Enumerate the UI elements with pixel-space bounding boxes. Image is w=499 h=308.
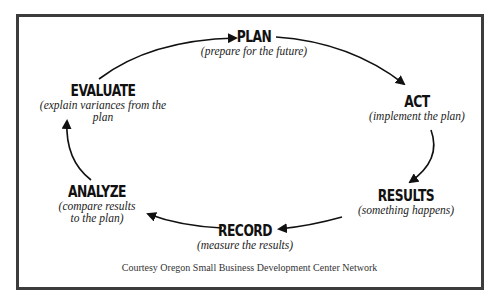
credit-footer: Courtesy Oregon Small Business Developme… — [0, 262, 499, 273]
node-subtitle-line-1: (compare results — [37, 200, 157, 212]
node-subtitle-line-1: (explain variances from the — [38, 99, 168, 111]
node-title: PLAN — [205, 29, 303, 45]
node-subtitle-line-2: to the plan) — [37, 212, 157, 224]
node-analyze: ANALYZE (compare results to the plan) — [37, 184, 157, 224]
arrow-act-to-results — [410, 130, 434, 182]
node-title: RESULTS — [357, 188, 455, 204]
node-subtitle: (implement the plan) — [357, 110, 477, 122]
node-act: ACT (implement the plan) — [357, 94, 477, 122]
node-title: ACT — [368, 94, 466, 110]
node-record: RECORD (measure the results) — [185, 223, 305, 251]
node-subtitle: (measure the results) — [185, 239, 305, 251]
node-title: ANALYZE — [48, 184, 146, 200]
node-results: RESULTS (something happens) — [346, 188, 466, 216]
node-plan: PLAN (prepare for the future) — [194, 29, 314, 57]
node-title: EVALUATE — [50, 83, 157, 99]
node-evaluate: EVALUATE (explain variances from the pla… — [38, 83, 168, 123]
node-subtitle: (something happens) — [346, 204, 466, 216]
arrow-analyze-to-evaluate — [67, 121, 91, 180]
node-subtitle: (prepare for the future) — [194, 45, 314, 57]
node-subtitle-line-2: plan — [38, 111, 168, 123]
node-title: RECORD — [196, 223, 294, 239]
